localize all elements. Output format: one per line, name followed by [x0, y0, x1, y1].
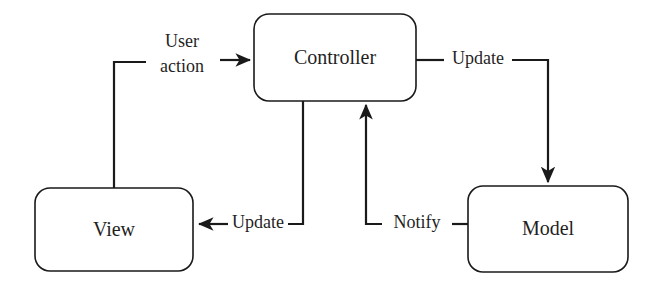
- mvc-diagram-canvas: User action Update Update Notify: [0, 0, 660, 285]
- edge-notify-model-controller: Notify: [366, 105, 468, 232]
- edge-label-update-model: Update: [452, 48, 504, 68]
- node-view-label: View: [93, 218, 136, 240]
- edge-user-action: User action: [114, 31, 250, 188]
- edge-update-view-path: [288, 101, 303, 224]
- edge-label-notify: Notify: [394, 212, 441, 232]
- edge-label-user-action-line2: action: [160, 56, 204, 76]
- edge-update-model-path: [512, 60, 548, 182]
- node-model-label: Model: [522, 217, 575, 239]
- node-controller-label: Controller: [294, 46, 377, 68]
- node-model[interactable]: Model: [468, 186, 628, 272]
- mvc-diagram: User action Update Update Notify: [0, 0, 660, 285]
- edge-label-update-view: Update: [232, 212, 284, 232]
- edge-update-controller-view: Update: [199, 101, 303, 232]
- node-controller[interactable]: Controller: [254, 14, 416, 101]
- node-view[interactable]: View: [35, 188, 193, 271]
- edge-update-controller-model: Update: [416, 48, 548, 182]
- edge-notify-path: [366, 105, 382, 224]
- edge-label-user-action-line1: User: [165, 31, 199, 51]
- edge-user-action-path: [114, 62, 146, 188]
